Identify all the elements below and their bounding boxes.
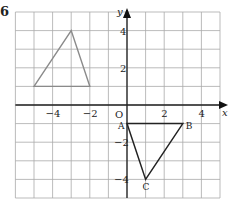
x-tick-label: 4 xyxy=(198,108,204,119)
y-axis-label: y xyxy=(116,6,123,17)
x-tick-label: 2 xyxy=(161,108,167,119)
y-tick-label: 2 xyxy=(120,63,126,74)
vertex-label-a: A xyxy=(117,121,125,131)
vertex-label-b: B xyxy=(186,121,193,131)
triangle-image xyxy=(34,31,90,87)
x-tick-label: −4 xyxy=(46,108,61,119)
origin-label: O xyxy=(115,109,123,120)
x-axis-label: x xyxy=(222,107,228,118)
x-tick-label: −2 xyxy=(83,108,98,119)
y-tick-label: −4 xyxy=(114,174,129,185)
y-tick-label: −2 xyxy=(114,137,129,148)
coordinate-grid: xyO−4−22442−2−4ABC xyxy=(0,0,229,209)
triangle-abc xyxy=(127,124,183,180)
vertex-label-c: C xyxy=(143,182,150,192)
y-axis-arrow-icon xyxy=(123,8,131,18)
y-tick-label: 4 xyxy=(120,26,126,37)
